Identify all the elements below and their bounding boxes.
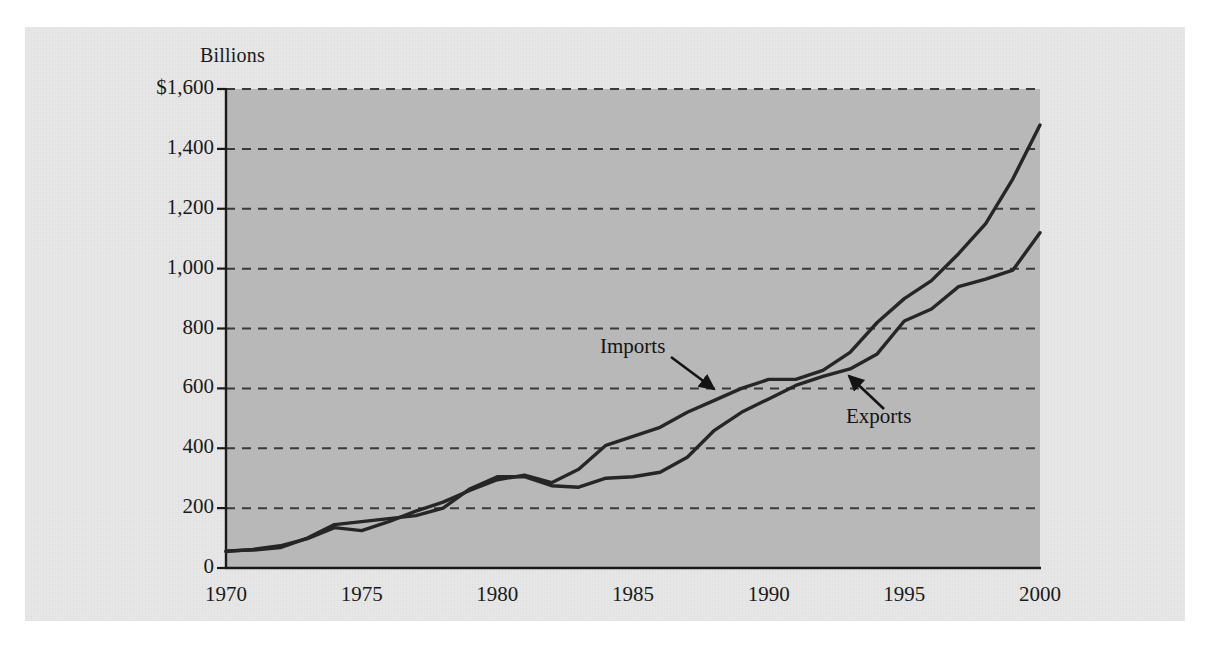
y-tick-label: 1,200 — [94, 195, 214, 220]
y-tick-label: $1,600 — [94, 75, 214, 100]
x-tick-label: 1975 — [302, 582, 422, 607]
x-tick-label: 2000 — [980, 582, 1100, 607]
y-tick-label: 200 — [94, 494, 214, 519]
tick-marks — [217, 89, 226, 568]
y-tick-label: 600 — [94, 374, 214, 399]
y-tick-label: 800 — [94, 315, 214, 340]
y-tick-label: 400 — [94, 434, 214, 459]
x-tick-label: 1980 — [437, 582, 557, 607]
x-tick-label: 1995 — [844, 582, 964, 607]
x-tick-label: 1985 — [573, 582, 693, 607]
series-label-imports: Imports — [600, 334, 665, 359]
series-label-exports: Exports — [846, 404, 911, 429]
y-tick-label: 0 — [94, 554, 214, 579]
y-tick-label: 1,400 — [94, 135, 214, 160]
x-tick-label: 1970 — [166, 582, 286, 607]
x-tick-label: 1990 — [709, 582, 829, 607]
y-tick-label: 1,000 — [94, 255, 214, 280]
